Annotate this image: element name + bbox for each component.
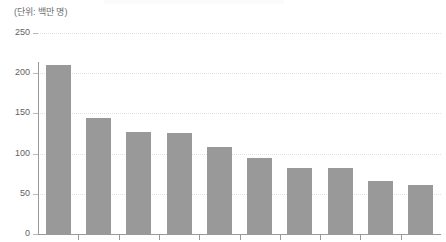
y-axis-tick-label: 0 (0, 228, 30, 238)
y-axis-tick-mark (33, 33, 38, 34)
y-axis-tick-label: 200 (0, 67, 30, 77)
bar (86, 118, 111, 234)
bar (167, 133, 192, 234)
bar (328, 168, 353, 234)
bar (408, 185, 433, 234)
y-axis-tick-label: 150 (0, 107, 30, 117)
y-axis-tick-label: 100 (0, 148, 30, 158)
bar (46, 65, 71, 234)
bar (126, 132, 151, 234)
bar-chart-figure: (단위: 백만 명) 050100150200250 (0, 0, 446, 242)
x-axis-line (38, 234, 441, 235)
bar (247, 158, 272, 234)
bar (368, 181, 393, 234)
gridline (38, 33, 441, 34)
bar (207, 147, 232, 234)
y-axis-tick-label: 250 (0, 27, 30, 37)
plot-area: 050100150200250 (0, 0, 446, 242)
bar (287, 168, 312, 234)
gridline (38, 73, 441, 74)
y-axis-tick-label: 50 (0, 188, 30, 198)
gridline (38, 113, 441, 114)
y-axis-line (38, 62, 39, 234)
